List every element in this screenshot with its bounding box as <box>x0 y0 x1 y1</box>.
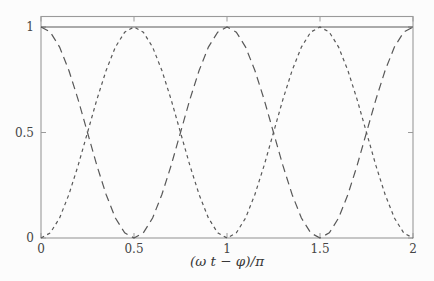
x-tick-label: 2 <box>409 242 417 256</box>
x-tick-label: 0.5 <box>124 242 143 256</box>
figure: (ω t − φ)/π 00.511.5200.51 <box>0 0 434 281</box>
plot-svg: (ω t − φ)/π 00.511.5200.51 <box>0 0 434 281</box>
x-tick-label: 0 <box>37 242 45 256</box>
y-tick-label: 0.5 <box>15 126 34 140</box>
series-cos-squared <box>41 27 413 238</box>
y-tick-label: 1 <box>26 20 34 34</box>
y-tick-label: 0 <box>26 231 34 245</box>
x-tick-label: 1.5 <box>310 242 329 256</box>
series-sin-squared <box>41 27 413 238</box>
plot-frame <box>41 17 413 239</box>
x-tick-label: 1 <box>223 242 231 256</box>
